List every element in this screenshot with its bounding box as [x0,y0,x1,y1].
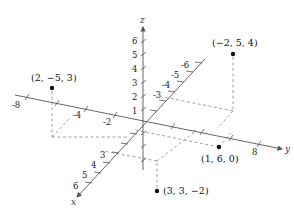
coordinate-diagram: 1 2 3 4 5 6 z -8 -4 -2 8 y 3 4 5 6 x -3 … [0,0,294,216]
x-axis [77,59,205,197]
z-ticks [141,39,146,162]
x-tick-label: 5 [82,170,87,180]
y-tick-label: -4 [73,110,81,120]
y-axis-label: y [284,144,291,154]
point-marker [217,145,221,149]
point-marker [155,189,159,193]
y-tick-label: 8 [252,147,257,157]
x-axis-label: x [71,197,76,207]
point-label: (−2, 5, 4) [212,37,258,48]
y-tick-label: -2 [103,117,111,127]
z-tick-label: 2 [132,92,137,102]
x-tick-label: 4 [91,160,96,170]
z-axis-label: z [139,15,145,25]
y-tick-label: -8 [12,100,20,110]
point-label: (3, 3, −2) [163,185,209,196]
z-tick-label: 6 [132,36,137,46]
projection-lines [52,57,233,188]
z-tick-label: 3 [132,78,137,88]
x-tick-label: 3 [100,150,105,160]
y-axis [15,95,282,149]
point-marker [50,86,54,90]
point-marker [231,52,235,56]
x-tick-label: -5 [171,70,179,80]
point-label: (2, −5, 3) [31,72,77,83]
x-tick-label: -3 [153,90,161,100]
z-tick-label: 4 [132,64,137,74]
x-tick-label: -4 [162,80,170,90]
point-label: (1, 6, 0) [201,153,239,164]
x-tick-label: -6 [181,60,189,70]
x-tick-label: 6 [73,181,78,191]
z-tick-label: 1 [132,106,137,116]
z-tick-label: 5 [132,50,137,60]
